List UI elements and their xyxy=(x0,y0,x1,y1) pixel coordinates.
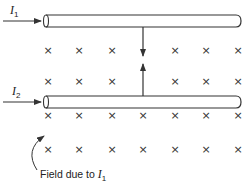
field-x-mark: × xyxy=(107,44,116,57)
field-x-mark: × xyxy=(233,143,242,156)
field-x-mark: × xyxy=(201,44,210,57)
wire-1 xyxy=(44,15,242,27)
field-x-mark: × xyxy=(107,75,116,88)
field-x-mark: × xyxy=(43,75,52,88)
field-x-mark: × xyxy=(74,44,83,57)
field-pointer-arrow xyxy=(32,136,44,170)
field-x-mark: × xyxy=(233,44,242,57)
wire-1-body xyxy=(46,15,241,27)
field-x-mark: × xyxy=(170,44,179,57)
field-x-mark: × xyxy=(201,109,210,122)
field-x-mark: × xyxy=(170,143,179,156)
wire-2 xyxy=(44,96,242,108)
field-x-mark: × xyxy=(43,44,52,57)
magnetic-field-marks: ×××××××××××××××××××××××××× xyxy=(43,44,242,156)
field-x-mark: × xyxy=(201,143,210,156)
field-x-mark: × xyxy=(74,75,83,88)
field-caption: Field due to I1 xyxy=(40,167,107,183)
wire-2-body xyxy=(46,96,241,108)
field-x-mark: × xyxy=(170,75,179,88)
field-x-mark: × xyxy=(74,143,83,156)
field-x-mark: × xyxy=(233,109,242,122)
field-x-mark: × xyxy=(170,109,179,122)
current-label-2: I2 xyxy=(11,84,21,100)
field-x-mark: × xyxy=(138,143,147,156)
field-x-mark: × xyxy=(233,75,242,88)
wire-1-end-cap xyxy=(44,15,49,27)
field-x-mark: × xyxy=(107,109,116,122)
current-label-1: I1 xyxy=(9,3,19,19)
field-x-mark: × xyxy=(201,75,210,88)
field-x-mark: × xyxy=(43,143,52,156)
parallel-wires-diagram: I1 I2 ×××××××××××××××××××××××××× Field d… xyxy=(0,0,251,187)
field-x-mark: × xyxy=(43,109,52,122)
field-x-mark: × xyxy=(138,109,147,122)
field-x-mark: × xyxy=(74,109,83,122)
wire-2-end-cap xyxy=(44,96,49,108)
field-x-mark: × xyxy=(107,143,116,156)
